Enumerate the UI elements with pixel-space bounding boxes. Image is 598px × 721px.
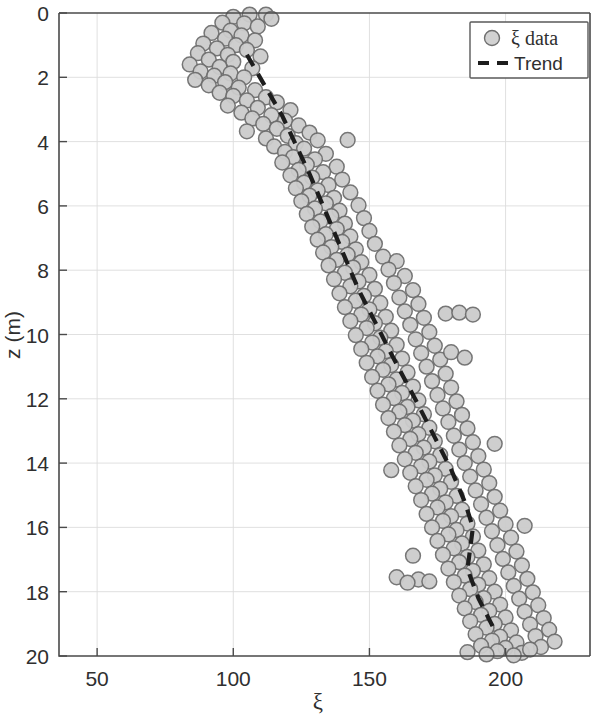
y-tick-label: 20 (26, 645, 49, 668)
y-tick-label: 18 (26, 581, 49, 604)
x-axis-title: ξ (313, 689, 323, 714)
legend-label-xi-data: ξ data (511, 27, 558, 49)
chart-canvas: 50100150200 02468101214161820 ξ z (m) ξ … (0, 0, 598, 721)
y-tick-label: 16 (26, 516, 49, 539)
y-tick-label: 4 (37, 131, 49, 154)
scatter-plot-figure: 50100150200 02468101214161820 ξ z (m) ξ … (0, 0, 598, 721)
legend-label-trend: Trend (514, 53, 563, 74)
y-tick-label: 12 (26, 388, 49, 411)
circle-marker-icon (485, 31, 500, 46)
y-tick-label: 6 (37, 195, 49, 218)
legend[interactable]: ξ data Trend (470, 22, 588, 78)
x-tick-label: 100 (216, 667, 251, 690)
y-tick-label: 10 (26, 324, 49, 347)
y-tick-label: 14 (26, 452, 50, 475)
y-tick-label: 8 (37, 259, 49, 282)
x-tick-label: 50 (85, 667, 108, 690)
y-tick-label: 2 (37, 66, 49, 89)
y-axis-title: z (m) (1, 311, 24, 359)
x-tick-label: 200 (488, 667, 523, 690)
y-tick-label: 0 (37, 2, 49, 25)
x-tick-label: 150 (352, 667, 387, 690)
